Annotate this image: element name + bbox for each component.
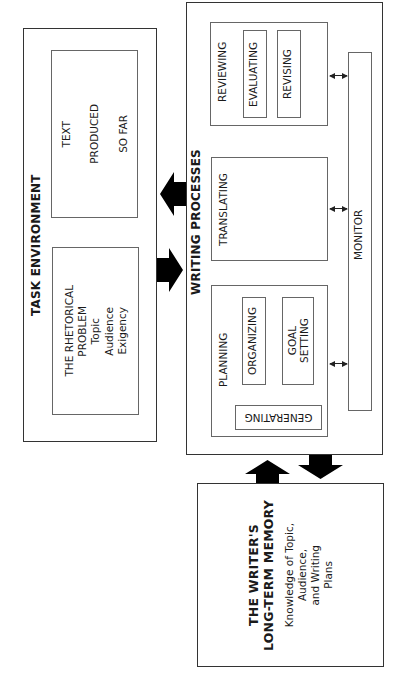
generating-label: GENERATING <box>235 405 322 430</box>
arrow-to-writing-processes-from-memory <box>245 460 290 484</box>
monitor-label: MONITOR <box>352 205 368 265</box>
long-term-memory-body-2: Audience, <box>296 549 308 601</box>
goal-setting-label: GOAL SETTING <box>282 297 314 385</box>
long-term-memory-body-1: Knowledge of Topic, <box>283 523 295 627</box>
writing-processes-title: WRITING PROCESSES <box>190 150 208 295</box>
long-term-memory-title-1: THE WRITER'S <box>247 524 261 626</box>
arrow-to-task-environment <box>160 172 186 216</box>
arrow-to-long-term-memory <box>298 455 343 479</box>
planning-label: PLANNING <box>217 325 233 395</box>
rhetorical-problem-line-3: Topic <box>89 318 101 344</box>
translating-monitor-arrow <box>330 208 347 209</box>
revising-label: REVISING <box>281 30 297 118</box>
text-produced-line-3: SO FAR <box>117 115 129 153</box>
text-produced-label: TEXT PRODUCED SO FAR <box>51 50 138 218</box>
arrow-to-writing-processes <box>157 248 183 292</box>
planning-monitor-arrow <box>330 363 347 364</box>
long-term-memory-title-2: LONG-TERM MEMORY <box>262 500 276 651</box>
text-produced-line-1: TEXT <box>60 121 72 147</box>
rhetorical-problem-line-4: Audience <box>103 307 115 356</box>
translating-label: TRANSLATING <box>217 170 233 250</box>
rhetorical-problem-line-1: THE RHETORICAL <box>63 285 75 377</box>
goal-setting-line-1: GOAL <box>286 326 298 355</box>
rhetorical-problem-label: THE RHETORICAL PROBLEM Topic Audience Ex… <box>52 247 139 415</box>
goal-setting-line-2: SETTING <box>298 318 310 363</box>
long-term-memory-content: THE WRITER'S LONG-TERM MEMORY Knowledge … <box>197 483 384 667</box>
rhetorical-problem-line-2: PROBLEM <box>76 306 88 357</box>
text-produced-line-2: PRODUCED <box>88 104 100 164</box>
long-term-memory-body-4: Plans <box>322 561 334 589</box>
reviewing-monitor-arrow <box>330 75 347 76</box>
organizing-label: ORGANIZING <box>246 297 262 385</box>
evaluating-label: EVALUATING <box>247 30 263 118</box>
rhetorical-problem-line-5: Exigency <box>116 307 128 355</box>
task-environment-title: TASK ENVIRONMENT <box>30 165 48 325</box>
reviewing-label: REVIEWING <box>216 36 232 108</box>
long-term-memory-body-3: and Writing <box>309 545 321 606</box>
